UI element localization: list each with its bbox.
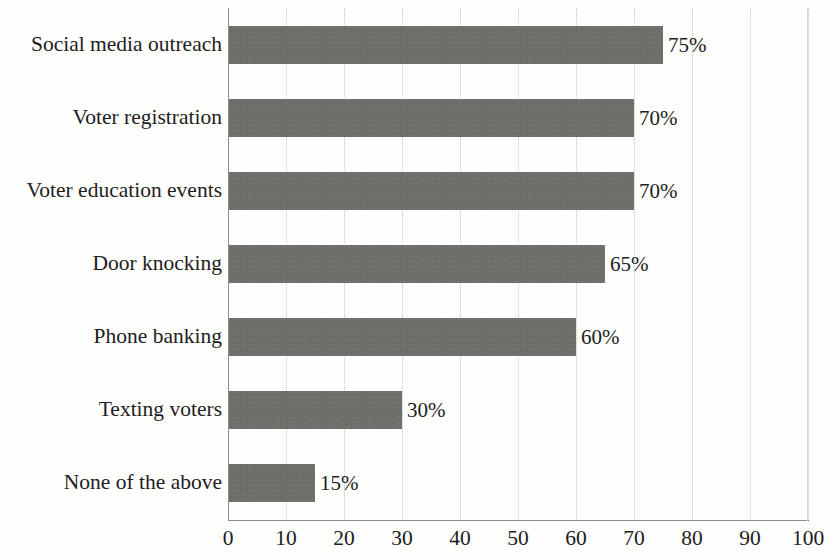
bar xyxy=(228,26,663,64)
bar-value-label: 30% xyxy=(402,400,446,421)
x-tick-label: 0 xyxy=(223,528,234,550)
category-label: Social media outreach xyxy=(31,34,222,56)
bars-layer: 75%70%70%65%60%30%15% xyxy=(228,8,808,520)
x-tick-label: 40 xyxy=(449,528,471,550)
y-axis-line xyxy=(228,8,229,521)
x-axis-line xyxy=(228,520,809,521)
bar-value-label: 15% xyxy=(315,473,359,494)
category-label: Door knocking xyxy=(92,253,222,275)
bar-row: 70% xyxy=(228,99,808,137)
bar-value-label: 65% xyxy=(605,254,649,275)
x-tick-label: 70 xyxy=(623,528,645,550)
bar-value-label: 60% xyxy=(576,327,620,348)
bar xyxy=(228,172,634,210)
bar xyxy=(228,99,634,137)
bar xyxy=(228,245,605,283)
gridline-100 xyxy=(808,8,809,520)
category-label: None of the above xyxy=(64,473,222,495)
bar-row: 30% xyxy=(228,391,808,429)
category-label: Voter registration xyxy=(73,107,222,129)
bar-chart: 75%70%70%65%60%30%15% Social media outre… xyxy=(0,0,834,559)
bar-value-label: 75% xyxy=(663,34,707,55)
bar xyxy=(228,318,576,356)
bar-row: 65% xyxy=(228,245,808,283)
bar xyxy=(228,464,315,502)
bar-row: 15% xyxy=(228,464,808,502)
x-tick-label: 30 xyxy=(391,528,413,550)
x-tick-label: 50 xyxy=(507,528,529,550)
x-tick-label: 80 xyxy=(681,528,703,550)
bar-row: 60% xyxy=(228,318,808,356)
bar-value-label: 70% xyxy=(634,107,678,128)
category-label: Phone banking xyxy=(94,326,222,348)
x-tick-label: 10 xyxy=(275,528,297,550)
category-label: Texting voters xyxy=(99,400,222,422)
x-tick-label: 60 xyxy=(565,528,587,550)
bar-row: 70% xyxy=(228,172,808,210)
bar xyxy=(228,391,402,429)
x-tick-label: 100 xyxy=(792,528,824,550)
x-tick-label: 90 xyxy=(739,528,761,550)
bar-value-label: 70% xyxy=(634,180,678,201)
bar-row: 75% xyxy=(228,26,808,64)
x-tick-label: 20 xyxy=(333,528,355,550)
category-label: Voter education events xyxy=(27,180,222,202)
plot-right-edge xyxy=(807,8,808,521)
